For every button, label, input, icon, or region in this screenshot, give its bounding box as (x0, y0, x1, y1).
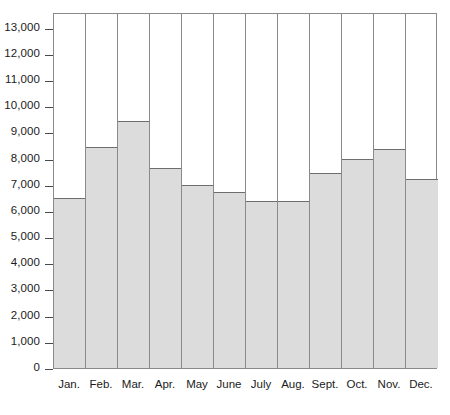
y-axis-tick-label: 13,000 (4, 21, 40, 33)
y-axis-tick-label: 9,000 (11, 125, 40, 137)
bar (182, 185, 213, 368)
y-axis-tick-label: 7,000 (11, 178, 40, 190)
y-axis-tick-mark (45, 160, 53, 161)
bar-column (214, 14, 246, 368)
x-axis-tick-label: Jan. (53, 378, 85, 390)
y-axis-tick-mark (45, 317, 53, 318)
plot-area (53, 13, 437, 369)
bars-layer (54, 14, 436, 368)
bar (374, 149, 405, 368)
x-axis-tick-label: Nov. (373, 378, 405, 390)
bar-column (86, 14, 118, 368)
bar (406, 179, 438, 368)
bar-chart: 01,0002,0003,0004,0005,0006,0007,0008,00… (0, 0, 450, 415)
bar (54, 198, 85, 368)
y-axis-tick-mark (45, 186, 53, 187)
y-axis-tick-label: 5,000 (11, 230, 40, 242)
y-axis-tick-mark (45, 264, 53, 265)
bar (342, 159, 373, 368)
y-axis-tick-label: 10,000 (4, 99, 40, 111)
y-axis-tick-mark (45, 55, 53, 56)
y-axis-tick-mark (45, 369, 53, 370)
bar-column (406, 14, 438, 368)
y-axis-tick-label: 2,000 (11, 309, 40, 321)
x-axis-tick-label: Mar. (117, 378, 149, 390)
y-axis-tick-label: 1,000 (11, 335, 40, 347)
y-axis-tick-mark (45, 343, 53, 344)
bar-column (150, 14, 182, 368)
y-axis-tick-mark (45, 290, 53, 291)
y-axis: 01,0002,0003,0004,0005,0006,0007,0008,00… (0, 0, 53, 415)
bar-column (54, 14, 86, 368)
bar (118, 121, 149, 368)
x-axis-tick-label: June (213, 378, 245, 390)
y-axis-tick-mark (45, 238, 53, 239)
x-axis-tick-label: Sept. (309, 378, 341, 390)
bar-column (278, 14, 310, 368)
y-axis-tick-label: 4,000 (11, 256, 40, 268)
x-axis-tick-label: Oct. (341, 378, 373, 390)
bar (86, 147, 117, 368)
x-axis-tick-label: July (245, 378, 277, 390)
x-axis-tick-label: Apr. (149, 378, 181, 390)
bar-column (342, 14, 374, 368)
y-axis-tick-mark (45, 107, 53, 108)
x-axis: Jan.Feb.Mar.Apr.MayJuneJulyAug.Sept.Oct.… (53, 370, 437, 400)
bar (310, 173, 341, 368)
y-axis-tick-label: 6,000 (11, 204, 40, 216)
y-axis-tick-label: 12,000 (4, 47, 40, 59)
bar-column (246, 14, 278, 368)
x-axis-tick-label: May (181, 378, 213, 390)
bar-column (118, 14, 150, 368)
y-axis-tick-mark (45, 29, 53, 30)
bar-column (310, 14, 342, 368)
x-axis-tick-label: Feb. (85, 378, 117, 390)
bar-column (374, 14, 406, 368)
y-axis-tick-label: 8,000 (11, 152, 40, 164)
y-axis-tick-mark (45, 81, 53, 82)
y-axis-tick-label: 3,000 (11, 282, 40, 294)
bar (246, 201, 277, 368)
y-axis-tick-mark (45, 133, 53, 134)
bar-column (182, 14, 214, 368)
x-axis-tick-label: Dec. (405, 378, 437, 390)
x-axis-tick-label: Aug. (277, 378, 309, 390)
bar (278, 201, 309, 368)
bar (150, 168, 181, 368)
bar (214, 192, 245, 368)
y-axis-tick-label: 0 (34, 361, 41, 373)
y-axis-tick-label: 11,000 (5, 73, 40, 85)
y-axis-tick-mark (45, 212, 53, 213)
